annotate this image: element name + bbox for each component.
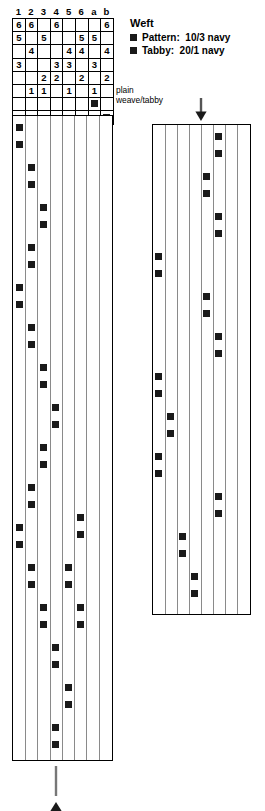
- threading-cell: 4: [63, 45, 76, 58]
- threading-cell: 1: [26, 85, 39, 98]
- drawdown-mark: [16, 541, 23, 548]
- threading-cell: 2: [51, 72, 64, 85]
- threading-cell: 5: [13, 32, 26, 45]
- drawdown-mark: [77, 621, 84, 628]
- threading-column-header: 2: [25, 5, 38, 18]
- legend-item-label: Pattern: 10/3 navy: [142, 32, 230, 43]
- panel-column-divider: [86, 116, 87, 760]
- drawdown-mark: [52, 404, 59, 411]
- drawdown-mark: [215, 510, 222, 517]
- drawdown-mark: [16, 524, 23, 531]
- threading-cell: [38, 19, 51, 32]
- drawdown-mark: [65, 581, 72, 588]
- threading-column-header: 5: [62, 5, 75, 18]
- drawdown-mark: [52, 661, 59, 668]
- drawdown-mark: [28, 341, 35, 348]
- drawdown-mark: [28, 564, 35, 571]
- panel-column-divider: [189, 125, 190, 614]
- drawdown-mark: [191, 573, 198, 580]
- drawdown-mark: [52, 644, 59, 651]
- drawdown-mark: [65, 564, 72, 571]
- threading-cell: 3: [89, 59, 102, 72]
- drawdown-mark: [40, 621, 47, 628]
- drawdown-mark: [155, 453, 162, 460]
- drawdown-mark: [28, 581, 35, 588]
- threading-cell: [51, 98, 64, 111]
- legend-swatch-icon: [130, 47, 137, 54]
- threading-column-header: 4: [50, 5, 63, 18]
- up-arrow-icon: [49, 766, 63, 811]
- drawdown-mark: [215, 150, 222, 157]
- drawdown-mark: [77, 514, 84, 521]
- threading-cell: 6: [13, 19, 26, 32]
- legend-item-pattern: Pattern: 10/3 navy: [130, 32, 230, 43]
- panel-column-divider: [62, 116, 63, 760]
- threading-cell: [76, 59, 89, 72]
- drawdown-mark: [65, 684, 72, 691]
- threading-cell: [76, 19, 89, 32]
- drawdown-mark: [40, 221, 47, 228]
- threading-cell: [76, 98, 89, 111]
- panel-column-divider: [99, 116, 100, 760]
- threading-cell: [13, 45, 26, 58]
- drawdown-mark: [52, 741, 59, 748]
- threading-cell: [51, 85, 64, 98]
- threading-column-header: 6: [75, 5, 88, 18]
- threading-cell: [26, 98, 39, 111]
- right-panel-gridlines: [153, 125, 250, 614]
- drawdown-mark: [52, 421, 59, 428]
- threading-filled-cell: [89, 98, 102, 111]
- drawdown-mark: [28, 324, 35, 331]
- threading-cell: [63, 72, 76, 85]
- threading-cell: [76, 85, 89, 98]
- drawdown-mark: [52, 724, 59, 731]
- drawdown-mark: [215, 230, 222, 237]
- drawdown-mark: [40, 444, 47, 451]
- threading-cell: [26, 72, 39, 85]
- threading-cell: 3: [13, 59, 26, 72]
- left-drawdown-panel: [12, 115, 113, 761]
- threading-column-headers: 123456ab: [12, 5, 114, 18]
- threading-cell: [13, 72, 26, 85]
- threading-cell: 1: [38, 85, 51, 98]
- drawdown-mark: [167, 413, 174, 420]
- threading-cell: [26, 59, 39, 72]
- threading-cell: [89, 45, 102, 58]
- threading-cell: [101, 85, 114, 98]
- threading-cell: [51, 32, 64, 45]
- drawdown-mark: [16, 284, 23, 291]
- drawdown-mark: [16, 124, 23, 131]
- threading-cell: 3: [63, 59, 76, 72]
- drawdown-mark: [77, 531, 84, 538]
- drawdown-mark: [215, 493, 222, 500]
- drawdown-mark: [215, 133, 222, 140]
- panel-column-divider: [50, 116, 51, 760]
- threading-cell: [13, 98, 26, 111]
- threading-cell: 6: [26, 19, 39, 32]
- threading-cell: [63, 32, 76, 45]
- drawdown-mark: [215, 350, 222, 357]
- threading-column-header: a: [88, 5, 101, 18]
- drawdown-mark: [40, 204, 47, 211]
- drawdown-mark: [40, 364, 47, 371]
- threading-cell: [38, 98, 51, 111]
- drawdown-mark: [179, 550, 186, 557]
- legend-item-tabby: Tabby: 20/1 navy: [130, 45, 230, 56]
- threading-cell: [38, 59, 51, 72]
- threading-cell: 4: [76, 45, 89, 58]
- drawdown-mark: [16, 141, 23, 148]
- threading-cell: [26, 32, 39, 45]
- right-drawdown-panel: [152, 124, 251, 615]
- threading-cell: 5: [89, 32, 102, 45]
- threading-cell: 5: [38, 32, 51, 45]
- drawdown-mark: [155, 390, 162, 397]
- drawdown-mark: [28, 261, 35, 268]
- drawdown-mark: [203, 310, 210, 317]
- threading-cell: 5: [76, 32, 89, 45]
- panel-column-divider: [74, 116, 75, 760]
- drawdown-mark: [40, 381, 47, 388]
- threading-cell: 6: [101, 19, 114, 32]
- left-panel-gridlines: [13, 116, 112, 760]
- threading-cell: [89, 72, 102, 85]
- legend-item-label: Tabby: 20/1 navy: [142, 45, 225, 56]
